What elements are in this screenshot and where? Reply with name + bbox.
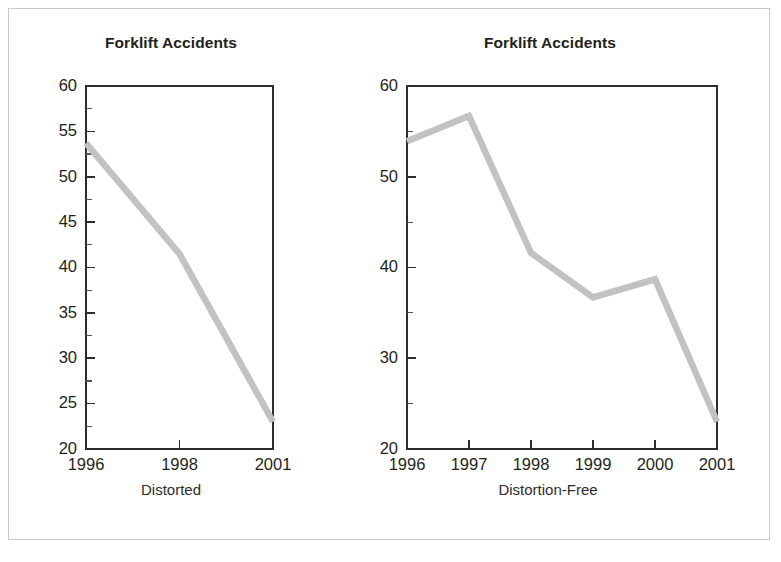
y-tick-label: 55 [59, 121, 77, 139]
x-tick-label: 1998 [161, 455, 198, 473]
chart-caption-distortion-free: Distortion-Free [337, 481, 759, 498]
y-tick-label: 60 [59, 76, 77, 94]
data-series-line [86, 143, 273, 422]
y-tick-label: 45 [59, 212, 77, 230]
chart-panel-distortion-free: Forklift Accidents 203040506019961997199… [349, 9, 771, 539]
x-tick-label: 1998 [513, 455, 550, 473]
x-tick-label: 1997 [451, 455, 488, 473]
y-tick-label: 35 [59, 303, 77, 321]
data-series-line [407, 116, 717, 422]
y-tick-label: 40 [59, 257, 77, 275]
y-tick-label: 40 [380, 257, 398, 275]
y-tick-label: 25 [59, 393, 77, 411]
y-tick-label: 50 [380, 167, 398, 185]
y-tick-label: 60 [380, 76, 398, 94]
x-tick-label: 1999 [575, 455, 612, 473]
chart-caption-distorted: Distorted [1, 481, 341, 498]
plot-area-distorted: 202530354045505560199619982001 [9, 9, 349, 479]
x-tick-label: 1996 [389, 455, 426, 473]
y-tick-label: 30 [380, 348, 398, 366]
plot-area-distortion-free: 2030405060199619971998199920002001 [349, 9, 771, 479]
x-tick-label: 1996 [68, 455, 105, 473]
x-tick-label: 2000 [637, 455, 674, 473]
y-tick-label: 30 [59, 348, 77, 366]
figure-frame: Forklift Accidents 202530354045505560199… [8, 8, 770, 540]
y-tick-label: 50 [59, 167, 77, 185]
chart-panel-distorted: Forklift Accidents 202530354045505560199… [9, 9, 349, 539]
x-tick-label: 2001 [255, 455, 292, 473]
x-tick-label: 2001 [699, 455, 736, 473]
